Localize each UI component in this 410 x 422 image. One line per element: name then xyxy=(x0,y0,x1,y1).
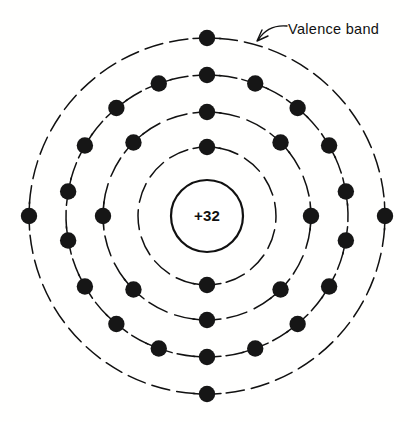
shell-arc-segment xyxy=(29,38,194,203)
electron-dot xyxy=(108,100,124,116)
shell-arc-segment xyxy=(170,352,195,356)
nucleus-charge-label: +32 xyxy=(194,207,220,224)
electron-dot xyxy=(289,316,305,332)
shell-arc-segment xyxy=(71,252,80,275)
electron-dot xyxy=(199,349,215,365)
shell-arc-segment xyxy=(289,228,311,280)
electron-dot xyxy=(151,340,167,356)
electron-dot xyxy=(95,208,111,224)
electron-dot xyxy=(303,208,319,224)
electron-dot xyxy=(151,75,167,91)
shell-arc-segment xyxy=(143,113,195,135)
electron-dot xyxy=(125,134,141,150)
electron-dot xyxy=(247,340,263,356)
electron-dot xyxy=(60,232,76,248)
shell-arc-segment xyxy=(219,352,244,356)
valence-band-callout: Valence band xyxy=(257,21,379,41)
electron-dot xyxy=(247,75,263,91)
shell-arc-segment xyxy=(335,252,344,275)
shell-arc-segment xyxy=(91,297,107,316)
atom-diagram-svg: +32 Valence band xyxy=(0,0,410,422)
electron-dot xyxy=(338,232,354,248)
shell-arc-segment xyxy=(307,116,323,135)
electron-dot xyxy=(199,277,215,293)
electron-dot xyxy=(199,139,215,155)
electron-dot xyxy=(199,30,215,46)
electron-dot xyxy=(272,134,288,150)
valence-band-label: Valence band xyxy=(288,21,379,37)
electron-dot xyxy=(377,208,393,224)
shell-arc-segment xyxy=(307,297,323,316)
electron-dot xyxy=(338,183,354,199)
electron-dot xyxy=(21,208,37,224)
electron-dot xyxy=(321,137,337,153)
electron-dot xyxy=(60,183,76,199)
electron-dot xyxy=(108,316,124,332)
electron-dot xyxy=(77,278,93,294)
shell-arc-segment xyxy=(126,88,148,100)
shell-arc-segment xyxy=(219,228,384,393)
shell-arc-segment xyxy=(266,331,288,343)
shell-arc-segment xyxy=(219,113,271,135)
shell-arc-segment xyxy=(91,116,107,135)
nucleus-group: +32 xyxy=(171,180,243,252)
shell-arc-segment xyxy=(289,152,311,204)
electron-dot xyxy=(321,278,337,294)
shell-arc-segment xyxy=(71,156,80,179)
shell-arc-segment xyxy=(104,152,126,204)
atom-diagram-figure: +32 Valence band xyxy=(0,0,410,422)
shell-arc-segment xyxy=(29,228,194,393)
shell-arc-segment xyxy=(335,156,344,179)
electron-dot xyxy=(199,104,215,120)
electron-dot xyxy=(199,312,215,328)
electron-dot xyxy=(289,100,305,116)
shell-arc-segment xyxy=(266,88,288,100)
electron-dot xyxy=(199,386,215,402)
shell-arc-segment xyxy=(219,38,384,203)
shell-arc-segment xyxy=(66,204,67,229)
electron-dot xyxy=(77,137,93,153)
electron-dot xyxy=(125,281,141,297)
shell-arc-segment xyxy=(347,204,348,229)
electron-dot xyxy=(199,67,215,83)
shell-arc-segment xyxy=(104,228,126,280)
electron-dot xyxy=(272,281,288,297)
shell-arc-segment xyxy=(219,76,244,80)
shell-arc-segment xyxy=(170,76,195,80)
shell-arc-segment xyxy=(143,298,195,320)
shell-arc-segment xyxy=(219,298,271,320)
shell-arc-segment xyxy=(126,331,148,343)
